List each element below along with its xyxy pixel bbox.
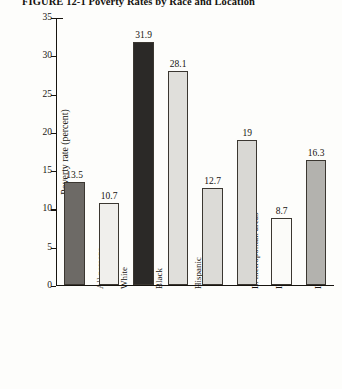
x-axis-category-label: White [120,267,129,289]
y-tick-label-0: 0 [47,281,52,291]
bar-slot: 10.7White [99,18,120,285]
figure-container: FIGURE 12-1 Poverty Rates by Race and Lo… [0,0,342,389]
y-tick-label-5: 5 [47,243,52,253]
figure-title: FIGURE 12-1 Poverty Rates by Race and Lo… [22,0,255,7]
x-axis-category-label: Black [154,268,163,289]
bar-value-label: 31.9 [135,31,152,41]
plot-area: Poverty rate (percent) 05101520253035 13… [56,18,334,286]
y-tick-label-20: 20 [43,128,53,138]
bar-slot: 16.3Outside metropolitan areas [306,18,327,285]
bar-slot: 19In central cities [237,18,258,285]
y-tick-label-25: 25 [43,90,53,100]
bar-group: 13.5All persons10.7White31.9Black28.1His… [57,18,334,285]
bar[interactable]: 28.1 [168,71,189,285]
bar[interactable]: 19 [237,140,258,285]
bar[interactable]: 31.9 [133,42,154,285]
bar[interactable]: 10.7 [99,203,120,285]
y-tick-label-30: 30 [43,52,53,62]
bar-value-label: 19 [242,129,252,139]
bar-slot: 12.7In metropolitan areas [202,18,223,285]
bar-value-label: 12.7 [204,177,221,187]
y-tick-label-15: 15 [43,166,53,176]
bar[interactable]: 8.7 [271,218,292,284]
bar-value-label: 28.1 [170,60,187,70]
bar[interactable]: 12.7 [202,188,223,285]
bar-value-label: 13.5 [66,171,83,181]
bar-slot: 13.5All persons [64,18,85,285]
bar-value-label: 10.7 [101,192,118,202]
bar[interactable]: 16.3 [306,160,327,284]
bar-slot: 31.9Black [133,18,154,285]
y-tick-label-10: 10 [43,205,53,215]
y-tick-label-35: 35 [43,13,53,23]
bar-value-label: 16.3 [308,149,325,159]
bar-slot: 8.7In suburban rings [271,18,292,285]
bar-slot: 28.1Hispanic [168,18,189,285]
bar-value-label: 8.7 [276,207,288,217]
bar[interactable]: 13.5 [64,182,85,285]
